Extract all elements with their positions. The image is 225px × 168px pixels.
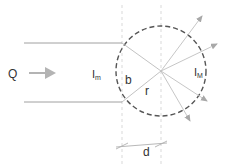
- upper-chord-ray: [122, 43, 161, 71]
- distance-label: d: [143, 145, 150, 159]
- outlet-intensity-label: IM: [194, 66, 203, 79]
- inlet-intensity-label: Im: [92, 68, 101, 81]
- ray-4: [161, 71, 190, 121]
- radius-label: r: [145, 84, 149, 98]
- diagram-canvas: Q Im b r IM d: [0, 0, 225, 168]
- flow-label: Q: [8, 67, 17, 81]
- ray-2: [161, 44, 217, 71]
- chord-label: b: [125, 73, 132, 87]
- flow-arrow-icon: [29, 67, 56, 79]
